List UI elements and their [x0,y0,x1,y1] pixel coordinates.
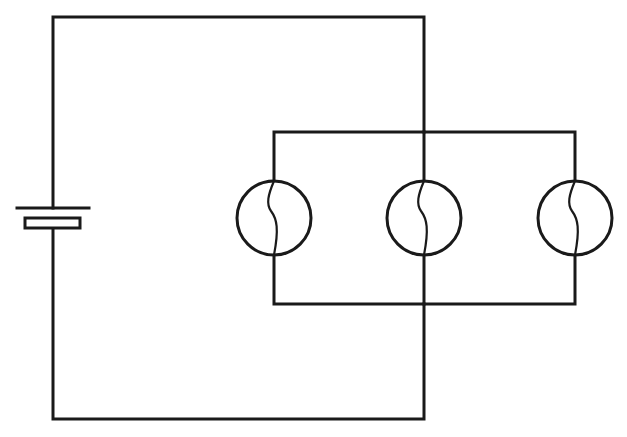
bulb-3-icon [538,181,612,255]
bulb-2-icon [387,181,461,255]
battery-short-plate [25,218,80,228]
battery-symbol [17,208,89,228]
wire-left-upper [53,17,424,208]
bulb-1-icon [237,181,311,255]
circuit-diagram [0,0,627,437]
wire-left-lower [53,229,424,419]
